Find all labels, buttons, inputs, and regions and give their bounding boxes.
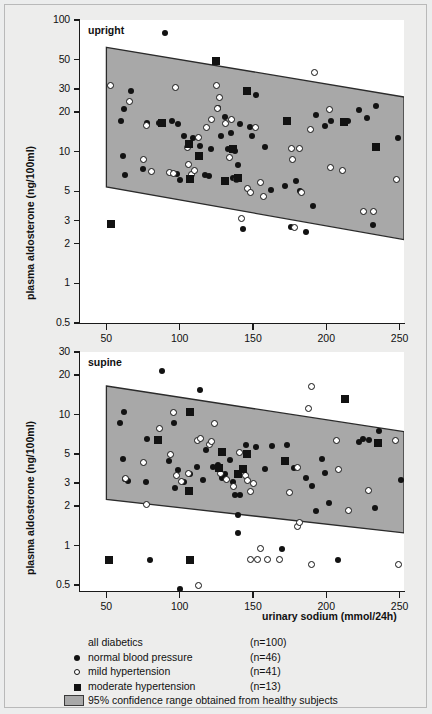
y-tick <box>74 374 80 375</box>
data-point-closed-circle <box>269 443 275 449</box>
legend-band-row: 95% confidence range obtained from healt… <box>88 694 418 709</box>
y-axis-title-supine: plasma aldosterone (ng/100ml) <box>24 421 36 575</box>
y-tick-label: 2 <box>30 499 70 511</box>
x-tick-label: 50 <box>86 600 126 612</box>
y-tick <box>74 545 80 546</box>
data-point-closed-circle <box>197 387 203 393</box>
legend: all diabetics(n=100)normal blood pressur… <box>88 636 418 709</box>
data-point-closed-circle <box>376 428 382 434</box>
data-point-closed-circle <box>279 546 285 552</box>
data-point-filled-square <box>105 556 113 564</box>
y-tick-label: 1 <box>30 539 70 551</box>
x-tick <box>252 592 253 598</box>
legend-count: (n=46) <box>250 651 281 663</box>
y-tick <box>74 482 80 483</box>
legend-count: (n=100) <box>250 636 286 648</box>
data-point-open-circle <box>392 437 399 444</box>
legend-label: mild hypertension <box>88 665 170 677</box>
data-point-closed-circle <box>253 444 259 450</box>
legend-marker-square-icon <box>74 684 81 691</box>
data-point-open-circle <box>143 501 150 508</box>
data-point-open-circle <box>247 488 254 495</box>
y-axis-line-supine <box>79 352 80 592</box>
data-point-open-circle <box>250 480 257 487</box>
data-point-closed-circle <box>171 420 177 426</box>
y-tick <box>74 351 80 352</box>
data-point-open-circle <box>345 507 352 514</box>
legend-marker-open-icon <box>74 669 80 675</box>
data-point-filled-square <box>154 436 162 444</box>
data-point-open-circle <box>223 476 230 483</box>
data-point-closed-circle <box>335 557 341 563</box>
x-axis-title: urinary sodium (mmol/24h) <box>262 610 397 622</box>
data-point-filled-square <box>218 448 226 456</box>
legend-row: moderate hypertension(n=13) <box>88 680 418 695</box>
y-tick-label: 20 <box>30 368 70 380</box>
legend-row: normal blood pressure(n=46) <box>88 651 418 666</box>
data-point-open-circle <box>156 425 163 432</box>
data-point-closed-circle <box>366 437 372 443</box>
data-point-closed-circle <box>243 442 249 448</box>
y-tick-label: 5 <box>30 447 70 459</box>
data-point-open-circle <box>247 556 254 563</box>
data-point-open-circle <box>257 545 264 552</box>
y-tick-label: 0.5 <box>30 578 70 590</box>
data-point-closed-circle <box>372 505 378 511</box>
legend-row: all diabetics(n=100) <box>88 636 418 651</box>
y-tick <box>74 505 80 506</box>
data-point-filled-square <box>215 464 223 472</box>
x-tick <box>326 592 327 598</box>
x-tick <box>399 592 400 598</box>
data-point-filled-square <box>185 487 193 495</box>
legend-band-label: 95% confidence range obtained from healt… <box>88 694 338 706</box>
panel-title-supine: supine <box>88 356 122 368</box>
legend-marker-closed-icon <box>74 655 80 661</box>
data-point-closed-circle <box>309 483 315 489</box>
x-tick <box>179 592 180 598</box>
data-point-closed-circle <box>117 420 123 426</box>
data-point-open-circle <box>308 561 315 568</box>
plot-area-supine <box>80 352 404 591</box>
data-point-closed-circle <box>313 508 319 514</box>
figure-root: upright 1005030201053210.5 5010015020025… <box>0 0 432 714</box>
data-point-filled-square <box>186 556 194 564</box>
x-axis-line-supine <box>79 591 405 592</box>
y-tick <box>74 584 80 585</box>
legend-row: mild hypertension(n=41) <box>88 665 418 680</box>
data-point-closed-circle <box>262 466 268 472</box>
legend-count: (n=41) <box>250 665 281 677</box>
data-point-open-circle <box>211 420 218 427</box>
legend-count: (n=13) <box>250 680 281 692</box>
data-point-closed-circle <box>303 475 309 481</box>
data-point-filled-square <box>243 450 251 458</box>
data-point-closed-circle <box>237 492 243 498</box>
data-point-open-circle <box>178 478 185 485</box>
data-point-open-circle <box>335 466 342 473</box>
data-point-closed-circle <box>322 470 328 476</box>
x-tick-label: 100 <box>160 600 200 612</box>
y-tick-label: 30 <box>30 345 70 357</box>
data-point-open-circle <box>365 487 372 494</box>
legend-band-swatch-icon <box>64 695 84 706</box>
data-point-filled-square <box>281 457 289 465</box>
panel-supine: supine 30201053210.5 50100150200250 plas… <box>0 0 432 714</box>
data-point-closed-circle <box>284 442 290 448</box>
data-point-filled-square <box>186 408 194 416</box>
y-tick-label: 10 <box>30 408 70 420</box>
legend-label: normal blood pressure <box>88 651 192 663</box>
data-point-open-circle <box>286 489 293 496</box>
data-point-open-circle <box>122 475 129 482</box>
x-tick <box>106 592 107 598</box>
data-point-closed-circle <box>319 456 325 462</box>
data-point-open-circle <box>197 435 204 442</box>
data-point-open-circle <box>140 459 147 466</box>
data-point-filled-square <box>234 470 242 478</box>
data-point-closed-circle <box>120 456 126 462</box>
y-tick <box>74 453 80 454</box>
data-point-open-circle <box>230 483 237 490</box>
data-point-open-circle <box>294 464 301 471</box>
data-point-filled-square <box>341 395 349 403</box>
data-point-closed-circle <box>227 457 233 463</box>
legend-label: all diabetics <box>88 636 143 648</box>
y-tick-label: 3 <box>30 476 70 488</box>
